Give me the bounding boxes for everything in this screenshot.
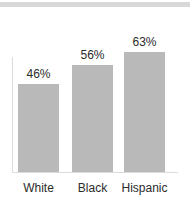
y-axis-line bbox=[12, 57, 13, 173]
x-axis-tick-label: White bbox=[8, 181, 69, 195]
bar-chart-figure: 46% 56% 63% White Black Hispanic bbox=[0, 0, 190, 206]
plot-area: 46% 56% 63% White Black Hispanic bbox=[0, 0, 190, 206]
bar-black[interactable] bbox=[72, 65, 113, 172]
x-axis-line bbox=[12, 172, 178, 173]
bar-white[interactable] bbox=[18, 84, 59, 172]
bar-value-label: 63% bbox=[124, 36, 165, 49]
bar-value-label: 56% bbox=[72, 49, 113, 62]
bar-hispanic[interactable] bbox=[124, 52, 165, 172]
x-axis-tick-label: Hispanic bbox=[114, 181, 175, 195]
bar-value-label: 46% bbox=[18, 68, 59, 81]
